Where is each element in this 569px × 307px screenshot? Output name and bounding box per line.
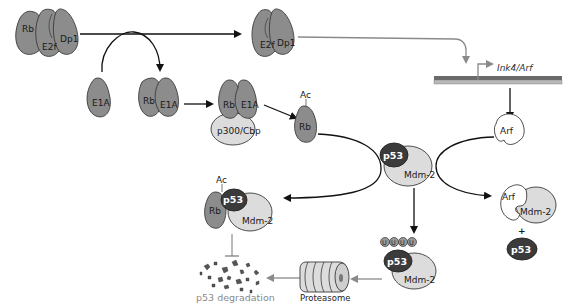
rb-e1a-p300-complex: Rb E1A p300/Cbp	[211, 80, 261, 145]
e1a-protein: E1A	[87, 78, 110, 117]
plus-sign: +	[518, 226, 526, 236]
acetylated-rb: Ac Rb	[295, 90, 317, 142]
rb-binds-p53-arrow	[285, 134, 381, 198]
ub-label: U	[382, 239, 387, 247]
rb-label: Rb	[209, 206, 221, 216]
rb-label: Rb	[22, 24, 34, 34]
dp1-label: Dp1	[60, 34, 78, 44]
mdm2-label: Mdm-2	[242, 216, 273, 226]
transcription-arrow	[298, 37, 466, 62]
e2f-label: E2f	[42, 42, 57, 52]
p53-label: p53	[511, 244, 531, 255]
dp1-label: Dp1	[277, 38, 295, 48]
proteasome: Proteasome	[300, 262, 350, 303]
p300-label: p300/Cbp	[217, 126, 261, 136]
dp1-protein-shape	[53, 9, 78, 54]
acetylation-arrow	[264, 105, 296, 118]
p53-label: p53	[383, 150, 403, 161]
rb-e2f-dp1-complex: Rb E2f Dp1	[16, 9, 79, 56]
ub-label: U	[391, 239, 396, 247]
rb-label: Rb	[223, 100, 235, 110]
e1a-label: E1A	[241, 100, 259, 110]
p53-mdm2-complex: p53 Mdm-2	[380, 143, 435, 186]
free-arf: Arf	[494, 114, 524, 145]
e1a-binding-arrow	[102, 32, 160, 72]
p53-label: p53	[223, 194, 243, 205]
degradation-fragments	[200, 260, 259, 293]
free-e2f-dp1-complex: E2f Dp1	[252, 9, 295, 56]
ub-label: U	[409, 239, 414, 247]
arf-label: Arf	[502, 192, 516, 202]
ac-label: Ac	[300, 90, 311, 100]
gene-label: Ink4/Arf	[497, 63, 534, 73]
arf-sequesters-mdm2-arrow	[436, 137, 494, 196]
ubiquitin-chain: U U U U	[381, 238, 417, 248]
p53-label: p53	[387, 256, 407, 267]
arf-mdm2-complex: Arf Mdm-2 + p53	[501, 185, 556, 260]
e1a-label: E1A	[92, 98, 110, 108]
mdm2-label: Mdm-2	[404, 170, 435, 180]
ub-label: U	[400, 239, 405, 247]
e1a-label: E1A	[160, 100, 178, 110]
rb-p53-mdm2-complex: Ac Rb p53 Mdm-2	[205, 175, 274, 231]
degradation-label: p53 degradation	[196, 292, 275, 303]
mdm2-label: Mdm-2	[404, 275, 435, 285]
ink4-arf-gene: Ink4/Arf	[434, 63, 562, 84]
dna-strand-top	[434, 76, 562, 80]
arf-label: Arf	[500, 126, 514, 136]
e2f-label: E2f	[260, 40, 275, 50]
ub-p53-mdm2-complex: p53 Mdm-2 U U U U	[381, 238, 437, 290]
proteasome-label: Proteasome	[300, 293, 350, 303]
rb-e1a-complex: Rb E1A	[139, 78, 179, 116]
dna-strand-bottom	[434, 80, 562, 84]
mdm2-label: Mdm-2	[520, 207, 551, 217]
rb-label: Rb	[143, 96, 155, 106]
ac-label: Ac	[216, 175, 227, 185]
e1a-protein-shape	[155, 78, 178, 116]
rb-label: Rb	[299, 122, 311, 132]
pathway-diagram: Rb E2f Dp1 E2f Dp1 Ink4/Arf E1A Rb E1A	[0, 0, 569, 307]
